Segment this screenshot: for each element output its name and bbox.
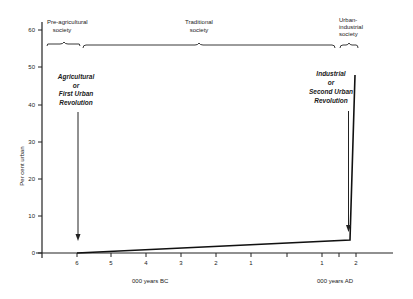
- x-ticks: 6 5 4 3 2 1 1 2: [75, 253, 358, 266]
- y-tick-label: 10: [28, 213, 35, 219]
- x-tick-label: 2: [214, 260, 218, 266]
- x-tick-label: 1: [320, 260, 324, 266]
- period-traditional-label-2: society: [190, 27, 209, 33]
- x-tick-label: 6: [75, 260, 79, 266]
- x-tick-label: 2: [354, 260, 358, 266]
- annotation-second-revolution-line2: or: [328, 79, 335, 86]
- annotation-second-revolution-line4: Revolution: [314, 97, 348, 104]
- period-urban-industrial-label-3: society: [339, 31, 358, 37]
- annotation-first-revolution-line2: or: [73, 82, 80, 89]
- period-pre-agricultural-label: Pre-agricultural: [47, 19, 88, 25]
- y-tick-label: 60: [28, 27, 35, 33]
- period-urban-industrial-label-2: industrial: [339, 24, 363, 30]
- y-tick-label: 20: [28, 176, 35, 182]
- annotation-first-revolution-line3: First Urban: [59, 90, 94, 97]
- brace-traditional: [83, 43, 335, 48]
- brace-pre-agricultural: [47, 42, 80, 46]
- y-tick-label: 40: [28, 102, 35, 108]
- period-urban-industrial-label: Urban-: [339, 17, 357, 23]
- annotation-second-revolution-line3: Second Urban: [309, 88, 353, 95]
- y-tick-label: 0: [32, 250, 36, 256]
- annotation-second-revolution-line1: Industrial: [316, 70, 345, 77]
- x-axis-label-ad: 000 years AD: [317, 278, 354, 284]
- x-tick-label: 5: [109, 260, 113, 266]
- x-tick-label: 3: [179, 260, 183, 266]
- arrowhead-down-icon: [76, 234, 81, 241]
- annotation-first-revolution-line4: Revolution: [59, 99, 93, 106]
- y-axis-label: Per cent urban: [19, 146, 25, 185]
- chart: 0 10 20 30 40 50 60 6 5 4 3 2 1 1 2 000 …: [0, 0, 413, 299]
- x-tick-label: 1: [249, 260, 253, 266]
- annotation-first-revolution-line1: Agricultural: [57, 73, 95, 81]
- x-axis-label-bc: 000 years BC: [132, 278, 169, 284]
- y-ticks: 0 10 20 30 40 50 60: [28, 27, 42, 256]
- y-tick-label: 30: [28, 139, 35, 145]
- period-pre-agricultural-label-2: society: [53, 27, 72, 33]
- period-traditional-label: Traditional: [185, 19, 213, 25]
- y-tick-label: 50: [28, 64, 35, 70]
- brace-urban-industrial: [340, 43, 358, 48]
- x-tick-label: 4: [144, 260, 148, 266]
